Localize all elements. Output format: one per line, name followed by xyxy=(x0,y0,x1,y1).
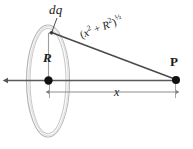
charge-element-marker xyxy=(50,31,53,34)
field-point-marker xyxy=(172,76,180,84)
ring-of-charge-figure: dq R x P (x2 + R2)½ xyxy=(0,0,193,149)
axial-distance-label: x xyxy=(114,86,119,98)
radius-label: R xyxy=(43,51,52,64)
charge-element-label: dq xyxy=(49,3,62,16)
ring-center-point xyxy=(44,76,52,84)
distance-line-dq-to-P xyxy=(52,33,177,80)
field-point-label: P xyxy=(170,55,178,68)
